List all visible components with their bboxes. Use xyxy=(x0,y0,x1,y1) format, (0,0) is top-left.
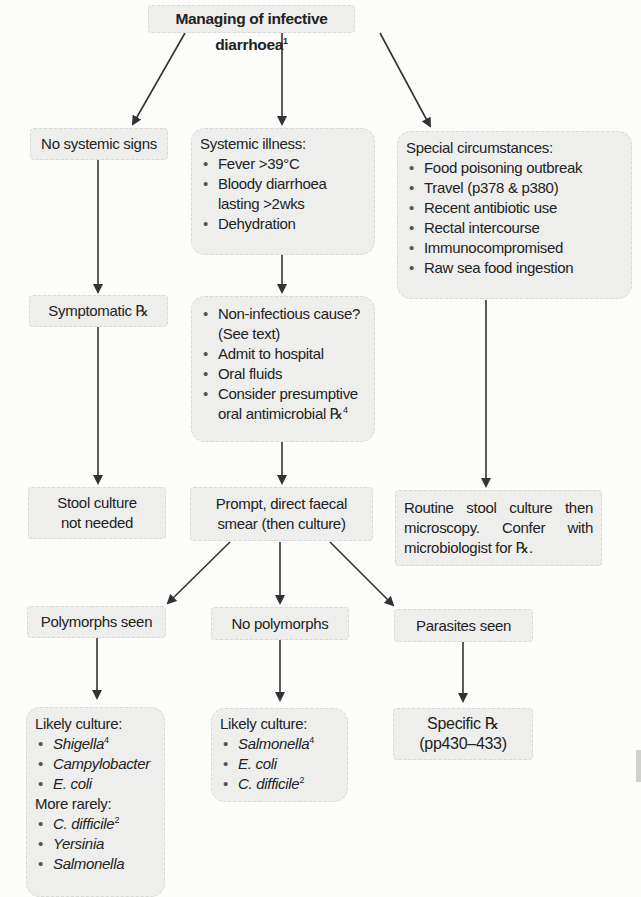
list-item: Raw sea food ingestion xyxy=(406,258,623,278)
likely-culture-list: Salmonella4 E. coli C. difficile2 xyxy=(220,734,339,794)
systemic-illness-list: Fever >39°C Bloody diarrhoea lasting >2w… xyxy=(200,154,366,234)
list-item: C. difficile2 xyxy=(35,814,156,834)
routine-stool-culture-text: Routine stool culture then microscopy. C… xyxy=(404,499,593,556)
parasites-seen-box: Parasites seen xyxy=(394,609,533,642)
more-rarely-list: C. difficile2 Yersinia Salmonella xyxy=(35,814,156,874)
parasites-seen-text: Parasites seen xyxy=(416,617,511,634)
list-item: Non-infectious cause? (See text) xyxy=(200,304,366,344)
no-polymorphs-culture-box: Likely culture: Salmonella4 E. coli C. d… xyxy=(211,708,348,802)
no-polymorphs-box: No polymorphs xyxy=(211,607,349,640)
likely-culture-list: Shigella4 Campylobacter E. coli xyxy=(35,734,156,794)
systemic-illness-heading: Systemic illness: xyxy=(200,134,366,154)
antimicrobial-footnote: 4 xyxy=(343,405,348,415)
faecal-smear-line-1: Prompt, direct faecal xyxy=(191,494,372,514)
list-item: Dehydration xyxy=(200,214,366,234)
list-item: Oral fluids xyxy=(200,364,366,384)
list-item: Salmonella4 xyxy=(220,734,339,754)
list-item: Travel (p378 & p380) xyxy=(406,178,623,198)
list-item: Salmonella xyxy=(35,854,156,874)
likely-culture-heading: Likely culture: xyxy=(220,714,339,734)
faecal-smear-line-2: smear (then culture) xyxy=(191,514,372,534)
no-systemic-signs-box: No systemic signs xyxy=(30,128,168,160)
polymorphs-seen-box: Polymorphs seen xyxy=(27,606,166,638)
no-polymorphs-text: No polymorphs xyxy=(232,615,329,632)
list-item: Rectal intercourse xyxy=(406,218,623,238)
special-circumstances-list: Food poisoning outbreak Travel (p378 & p… xyxy=(406,158,623,278)
symptomatic-rx-box: Symptomatic ℞ xyxy=(29,295,168,327)
polymorphs-seen-text: Polymorphs seen xyxy=(41,613,152,630)
specific-rx-line-2: (pp430–433) xyxy=(394,734,532,754)
antimicrobial-text: Consider presumptive oral antimicrobial … xyxy=(218,385,358,422)
list-item: E. coli xyxy=(35,774,156,794)
stool-culture-not-needed-box: Stool culture not needed xyxy=(28,487,166,539)
faecal-smear-box: Prompt, direct faecal smear (then cultur… xyxy=(190,487,373,541)
stool-culture-line-2: not needed xyxy=(29,513,165,533)
likely-culture-heading: Likely culture: xyxy=(35,714,156,734)
symptomatic-rx-text: Symptomatic ℞ xyxy=(48,302,148,319)
list-item: Bloody diarrhoea lasting >2wks xyxy=(200,174,366,214)
more-rarely-heading: More rarely: xyxy=(35,794,156,814)
title-box: Managing of infective diarrhoea1 xyxy=(148,5,355,33)
list-item: E. coli xyxy=(220,754,339,774)
list-item: Consider presumptive oral antimicrobial … xyxy=(200,384,366,424)
list-item: Immunocompromised xyxy=(406,238,623,258)
list-item: Admit to hospital xyxy=(200,344,366,364)
systemic-illness-box: Systemic illness: Fever >39°C Bloody dia… xyxy=(191,128,375,255)
list-item: C. difficile2 xyxy=(220,774,339,794)
list-item: Campylobacter xyxy=(35,754,156,774)
specific-rx-line-1: Specific ℞ xyxy=(394,714,532,734)
special-circumstances-heading: Special circumstances: xyxy=(406,138,623,158)
no-systemic-signs-text: No systemic signs xyxy=(41,135,157,152)
list-item: Yersinia xyxy=(35,834,156,854)
stool-culture-line-1: Stool culture xyxy=(29,493,165,513)
hospital-management-box: Non-infectious cause? (See text) Admit t… xyxy=(191,296,375,442)
polymorphs-culture-box: Likely culture: Shigella4 Campylobacter … xyxy=(26,707,165,897)
routine-stool-culture-box: Routine stool culture then microscopy. C… xyxy=(395,490,602,566)
list-item: Shigella4 xyxy=(35,734,156,754)
page-edge-tab xyxy=(636,750,641,782)
list-item: Fever >39°C xyxy=(200,154,366,174)
list-item: Recent antibiotic use xyxy=(406,198,623,218)
special-circumstances-box: Special circumstances: Food poisoning ou… xyxy=(397,131,632,299)
specific-rx-box: Specific ℞ (pp430–433) xyxy=(393,708,533,760)
list-item: Food poisoning outbreak xyxy=(406,158,623,178)
hospital-management-list: Non-infectious cause? (See text) Admit t… xyxy=(200,304,366,424)
title-footnote: 1 xyxy=(283,36,288,46)
